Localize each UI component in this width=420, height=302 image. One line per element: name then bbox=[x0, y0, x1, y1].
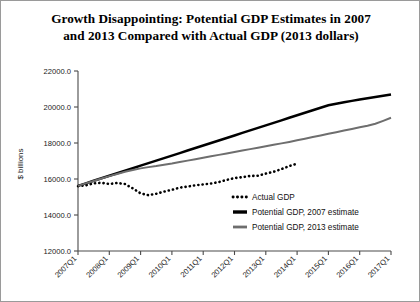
data-series-group bbox=[78, 94, 391, 195]
x-tick-label: 2016Q1 bbox=[335, 254, 360, 279]
chart-legend: Actual GDPPotential GDP, 2007 estimatePo… bbox=[233, 193, 359, 232]
x-tick-label: 2013Q1 bbox=[241, 254, 266, 279]
y-tick-label: 20000.0 bbox=[44, 103, 71, 112]
x-tick-label: 2011Q1 bbox=[179, 254, 204, 279]
x-tick-label: 2009Q1 bbox=[116, 254, 141, 279]
x-tick-label: 2010Q1 bbox=[147, 254, 172, 279]
y-axis: 12000.014000.016000.018000.020000.022000… bbox=[44, 67, 78, 256]
legend-label: Potential GDP, 2013 estimate bbox=[252, 223, 359, 232]
y-tick-label: 12000.0 bbox=[44, 247, 71, 256]
legend-label: Actual GDP bbox=[252, 193, 295, 202]
x-tick-label: 2014Q1 bbox=[272, 254, 297, 279]
x-axis: 2007Q12008Q12009Q12010Q12011Q12012Q12013… bbox=[53, 251, 391, 280]
x-tick-label: 2017Q1 bbox=[366, 254, 391, 279]
y-tick-label: 22000.0 bbox=[44, 67, 71, 76]
y-axis-title: $ billions bbox=[16, 148, 25, 179]
series-line bbox=[78, 164, 297, 196]
x-tick-label: 2015Q1 bbox=[303, 254, 328, 279]
x-tick-label: 2012Q1 bbox=[209, 254, 234, 279]
legend-label: Potential GDP, 2007 estimate bbox=[252, 208, 359, 217]
x-tick-label: 2008Q1 bbox=[84, 254, 109, 279]
chart-figure: Growth Disappointing: Potential GDP Esti… bbox=[0, 0, 420, 302]
y-tick-label: 18000.0 bbox=[44, 139, 71, 148]
x-tick-label: 2007Q1 bbox=[53, 254, 78, 279]
y-tick-label: 16000.0 bbox=[44, 175, 71, 184]
y-tick-label: 14000.0 bbox=[44, 211, 71, 220]
chart-plot-area: 12000.014000.016000.018000.020000.022000… bbox=[1, 1, 420, 302]
series-line bbox=[78, 118, 391, 186]
